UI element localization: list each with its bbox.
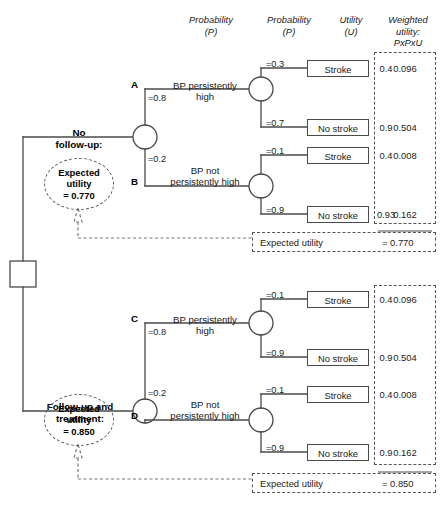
weighted-utility-column-top <box>374 52 436 224</box>
leaf-probability-a1: =0.3 <box>266 59 284 69</box>
leaf-probability-a2: =0.7 <box>266 118 284 128</box>
expected-utility-value-bottom: = 0.850 <box>382 476 414 491</box>
leaf-probability-d1: =0.1 <box>266 385 284 395</box>
node-letter-a: A <box>131 79 138 90</box>
outcome-box-b2: No stroke <box>307 206 369 223</box>
outcome-box-a2: No stroke <box>307 119 369 136</box>
oval-line-3: = 0.770 <box>63 190 95 202</box>
oval-line-2: utility <box>67 414 92 426</box>
leaf-probability-d2: =0.9 <box>266 443 284 453</box>
weighted-utility-column-bottom <box>374 285 436 465</box>
oval-line-3: = 0.850 <box>63 426 95 438</box>
leaf-probability-c2: =0.9 <box>266 348 284 358</box>
probability-d: =0.2 <box>148 388 166 398</box>
leaf-probability-c1: =0.1 <box>266 290 284 300</box>
header-probability-2: Probability (P) <box>248 14 330 37</box>
outcome-box-c1: Stroke <box>307 291 369 308</box>
node-letter-b: B <box>131 176 138 187</box>
leaf-probability-b1: =0.1 <box>266 146 284 156</box>
branch-label-c: BP persistently high <box>155 314 255 336</box>
outcome-box-d2: No stroke <box>307 444 369 461</box>
outcome-box-b1: Stroke <box>307 147 369 164</box>
outcome-box-d1: Stroke <box>307 386 369 403</box>
expected-utility-oval-follow-up: Expected utility = 0.850 <box>44 394 114 446</box>
expected-utility-label-top: Expected utility <box>260 235 323 250</box>
outcome-box-c2: No stroke <box>307 349 369 366</box>
branch-label-a: BP persistently high <box>155 80 255 102</box>
expected-utility-value-top: = 0.770 <box>382 235 414 250</box>
branch-label-b: BP not persistently high <box>155 165 255 187</box>
oval-line-1: Expected <box>58 403 100 415</box>
leaf-probability-b2: =0.9 <box>266 205 284 215</box>
node-letter-c: C <box>131 313 138 324</box>
oval-line-1: Expected <box>58 167 100 179</box>
arm-title-no-follow-up: No follow-up: <box>38 127 120 150</box>
branch-label-d: BP not persistently high <box>155 399 255 421</box>
decision-tree-diagram: Probability (P) Probability (P) Utility … <box>0 0 446 510</box>
expected-utility-label-bottom: Expected utility <box>260 476 323 491</box>
header-probability-1: Probability (P) <box>170 14 252 37</box>
probability-b: =0.2 <box>148 154 166 164</box>
outcome-box-a1: Stroke <box>307 60 369 77</box>
expected-utility-oval-no-follow-up: Expected utility = 0.770 <box>44 158 114 210</box>
oval-line-2: utility <box>67 178 92 190</box>
header-weighted-utility: Weighted utility: PxPxU <box>376 14 440 49</box>
node-letter-d: D <box>131 410 138 421</box>
header-utility: Utility (U) <box>330 14 372 37</box>
